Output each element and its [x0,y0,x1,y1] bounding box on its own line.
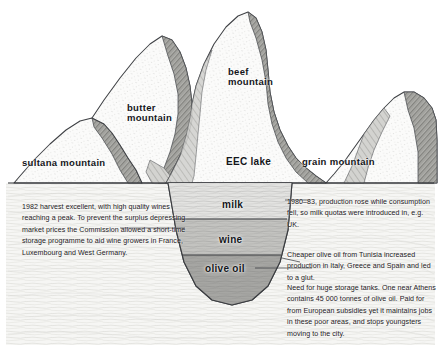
note-wine-text: 1982 harvest excellent, with high qualit… [22,202,188,259]
lake-layer-label-milk: milk [222,200,243,211]
note-milk: 1980–83, production rose while consumpti… [287,197,435,231]
diagram-canvas: sultana mountain buttermountain beefmoun… [0,0,441,358]
note-olive-oil: Cheaper olive oil from Tunisia increased… [287,250,437,284]
note-storage-text: Need for huge storage tanks. One near At… [287,283,437,340]
note-olive-oil-text: Cheaper olive oil from Tunisia increased… [287,250,437,284]
note-wine: 1982 harvest excellent, with high qualit… [22,202,188,259]
peak-label-butter: buttermountain [127,103,172,124]
peak-label-grain: grain mountain [302,157,375,167]
note-storage: Need for huge storage tanks. One near At… [287,283,437,340]
lake-layer-label-wine: wine [219,235,242,246]
peak-label-beef: beefmountain [228,67,273,88]
lake-label-eec: EEC lake [226,157,271,168]
peak-label-sultana: sultana mountain [22,158,105,168]
note-milk-text: 1980–83, production rose while consumpti… [287,197,435,231]
lake-layer-label-olive-oil: olive oil [205,264,245,275]
peak-label-butter-line2: mountain [127,112,172,123]
peak-label-beef-line2: mountain [228,76,273,87]
